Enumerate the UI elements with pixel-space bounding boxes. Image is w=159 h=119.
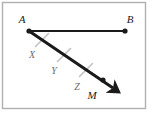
point-label-a: A	[18, 13, 26, 25]
point-label-b: B	[127, 13, 134, 25]
tick-point-label-x: X	[28, 49, 36, 60]
geometry-figure: A B M X Y Z	[0, 0, 159, 119]
tick-point-label-z: Z	[74, 81, 80, 92]
point-m-dot	[100, 77, 105, 82]
figure-canvas: A B M X Y Z	[0, 0, 159, 119]
point-label-m: M	[86, 89, 97, 101]
point-b-dot	[122, 28, 127, 33]
point-a-dot	[26, 28, 31, 33]
